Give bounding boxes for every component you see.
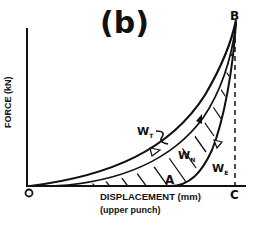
arrow-icon bbox=[214, 140, 222, 148]
arrow-icon bbox=[150, 148, 160, 156]
point-c-label: C bbox=[230, 189, 239, 201]
point-b-label: B bbox=[230, 10, 239, 22]
loading-curve bbox=[30, 20, 236, 186]
panel-label: (b) bbox=[100, 8, 149, 38]
y-axis-label: FORCE (kN) bbox=[4, 77, 13, 129]
work-elastic-label: WE bbox=[212, 163, 228, 176]
work-net-label: WN bbox=[178, 150, 195, 163]
origin-marker bbox=[26, 190, 33, 197]
arrow-icon bbox=[196, 114, 202, 124]
force-displacement-diagram: (b) FORCE (kN) DISPLACEMENT (mm) (upper … bbox=[0, 0, 257, 227]
point-a-label: A bbox=[165, 174, 174, 186]
work-total-label: WT bbox=[137, 126, 153, 139]
x-axis-label: DISPLACEMENT (mm) bbox=[100, 192, 201, 202]
loading-curve-inner bbox=[55, 24, 236, 186]
x-axis-sublabel: (upper punch) bbox=[100, 206, 161, 215]
